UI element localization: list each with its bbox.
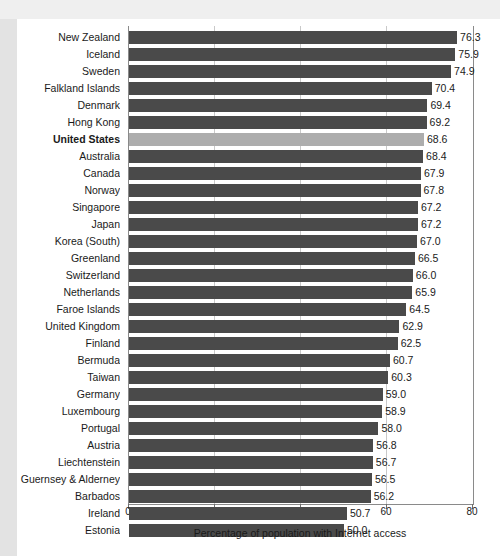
bar-value-label: 58.0 (381, 420, 401, 437)
bar-highlighted[interactable] (129, 133, 424, 146)
category-label: Finland (0, 335, 120, 352)
category-label: Liechtenstein (0, 454, 120, 471)
bar-value-label: 60.3 (391, 369, 411, 386)
bar[interactable] (129, 99, 427, 112)
bar-row: Liechtenstein56.7 (0, 454, 500, 471)
bar-row: Iceland75.9 (0, 46, 500, 63)
bar-value-label: 70.4 (435, 80, 455, 97)
bar-row: Singapore67.2 (0, 199, 500, 216)
bar[interactable] (129, 439, 373, 452)
category-label: Denmark (0, 97, 120, 114)
bar[interactable] (129, 235, 417, 248)
bar[interactable] (129, 507, 347, 520)
bar[interactable] (129, 218, 418, 231)
bar-row: Norway67.8 (0, 182, 500, 199)
bar-value-label: 64.5 (409, 301, 429, 318)
bar-value-label: 66.5 (418, 250, 438, 267)
bar-row: Switzerland66.0 (0, 267, 500, 284)
bar[interactable] (129, 337, 398, 350)
bar-value-label: 67.2 (421, 216, 441, 233)
category-label: Luxembourg (0, 403, 120, 420)
bar[interactable] (129, 422, 378, 435)
bar[interactable] (129, 354, 390, 367)
bar[interactable] (129, 201, 418, 214)
bar[interactable] (129, 269, 413, 282)
category-label: Iceland (0, 46, 120, 63)
bar[interactable] (129, 167, 421, 180)
x-axis-title: Percentage of population with Internet a… (128, 527, 472, 539)
bar-value-label: 74.9 (454, 63, 474, 80)
category-label: Germany (0, 386, 120, 403)
category-label: Netherlands (0, 284, 120, 301)
bar[interactable] (129, 31, 457, 44)
bar[interactable] (129, 286, 412, 299)
bar-row: Taiwan60.3 (0, 369, 500, 386)
bar-row: United Kingdom62.9 (0, 318, 500, 335)
bar-value-label: 66.0 (416, 267, 436, 284)
bar-value-label: 69.2 (430, 114, 450, 131)
bar-value-label: 69.4 (430, 97, 450, 114)
bar-row: Barbados56.2 (0, 488, 500, 505)
bar-value-label: 59.0 (386, 386, 406, 403)
bar-value-label: 58.9 (385, 403, 405, 420)
category-label: Austria (0, 437, 120, 454)
bar-row: Germany59.0 (0, 386, 500, 403)
category-label: Switzerland (0, 267, 120, 284)
bar-value-label: 67.8 (424, 182, 444, 199)
category-label: Japan (0, 216, 120, 233)
bar-value-label: 68.4 (426, 148, 446, 165)
bar-value-label: 60.7 (393, 352, 413, 369)
bar-row: Falkland Islands70.4 (0, 80, 500, 97)
category-label: Sweden (0, 63, 120, 80)
category-label: Bermuda (0, 352, 120, 369)
bar-value-label: 67.2 (421, 199, 441, 216)
bar[interactable] (129, 490, 371, 503)
bar[interactable] (129, 371, 388, 384)
bar-row: Finland62.5 (0, 335, 500, 352)
bar[interactable] (129, 405, 382, 418)
category-label: United Kingdom (0, 318, 120, 335)
bar[interactable] (129, 184, 421, 197)
bar-row: United States68.6 (0, 131, 500, 148)
bar-value-label: 62.5 (401, 335, 421, 352)
category-label: Canada (0, 165, 120, 182)
category-label: Korea (South) (0, 233, 120, 250)
bar-row: Denmark69.4 (0, 97, 500, 114)
bar-value-label: 62.9 (402, 318, 422, 335)
bar[interactable] (129, 48, 455, 61)
bar-value-label: 67.9 (424, 165, 444, 182)
bar[interactable] (129, 473, 372, 486)
bar-row: Hong Kong69.2 (0, 114, 500, 131)
bar[interactable] (129, 150, 423, 163)
bar-value-label: 67.0 (420, 233, 440, 250)
bar[interactable] (129, 456, 373, 469)
category-label: Barbados (0, 488, 120, 505)
bar-value-label: 56.2 (374, 488, 394, 505)
bar[interactable] (129, 320, 399, 333)
bar-row: Luxembourg58.9 (0, 403, 500, 420)
category-label: Australia (0, 148, 120, 165)
bar[interactable] (129, 388, 383, 401)
bar-row: Japan67.2 (0, 216, 500, 233)
bar-row: Korea (South)67.0 (0, 233, 500, 250)
bar-row: Netherlands65.9 (0, 284, 500, 301)
category-label: Singapore (0, 199, 120, 216)
bar[interactable] (129, 82, 432, 95)
category-label: Faroe Islands (0, 301, 120, 318)
bar[interactable] (129, 303, 406, 316)
bar-row: Faroe Islands64.5 (0, 301, 500, 318)
bar-row: Australia68.4 (0, 148, 500, 165)
bar-row: Bermuda60.7 (0, 352, 500, 369)
category-label: Greenland (0, 250, 120, 267)
bar-value-label: 56.8 (376, 437, 396, 454)
bar-row: New Zealand76.3 (0, 29, 500, 46)
bar[interactable] (129, 252, 415, 265)
category-label: Falkland Islands (0, 80, 120, 97)
bar[interactable] (129, 65, 451, 78)
bar-value-label: 76.3 (460, 29, 480, 46)
bar-value-label: 68.6 (427, 131, 447, 148)
bar[interactable] (129, 116, 427, 129)
category-label: Estonia (0, 522, 120, 539)
category-label: Hong Kong (0, 114, 120, 131)
bar-value-label: 56.5 (375, 471, 395, 488)
